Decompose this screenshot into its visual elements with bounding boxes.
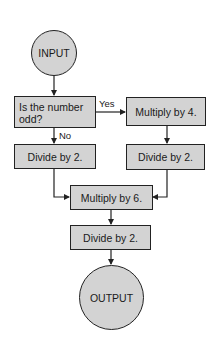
output-node: OUTPUT [79,265,144,330]
divide-by-2-right-label: Divide by 2. [138,151,193,163]
multiply-by-4-label: Multiply by 4. [135,106,196,118]
arrow-right-to-multiply6 [153,169,167,197]
divide-by-2-left-node: Divide by 2. [14,144,96,169]
divide-by-2-right-node: Divide by 2. [126,144,205,170]
no-edge-label: No [59,131,71,141]
input-node: INPUT [31,30,77,76]
divide-by-2-bottom-label: Divide by 2. [83,232,138,244]
arrow-left-to-multiply6 [54,168,69,197]
multiply-by-6-label: Multiply by 6. [81,192,142,204]
yes-edge-label: Yes [99,99,115,109]
divide-by-2-left-label: Divide by 2. [28,151,83,163]
decision-node: Is the number odd? [14,96,96,128]
multiply-by-4-node: Multiply by 4. [126,97,206,126]
input-label: INPUT [38,47,70,59]
decision-label: Is the number odd? [19,101,93,125]
output-label: OUTPUT [90,292,133,304]
divide-by-2-bottom-node: Divide by 2. [70,225,151,250]
multiply-by-6-node: Multiply by 6. [70,185,153,210]
